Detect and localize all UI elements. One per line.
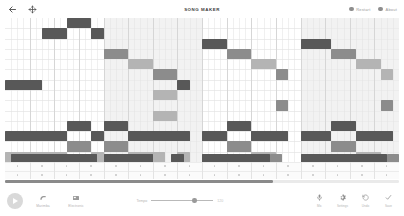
grid-note-cell[interactable] (276, 69, 288, 79)
percussion-separator (5, 162, 399, 163)
instrument-melody-label: Marimba (36, 204, 50, 208)
undo-icon (361, 193, 370, 202)
percussion-cell[interactable] (202, 154, 270, 163)
grid-note-cell[interactable] (202, 39, 227, 49)
grid-note-cell[interactable] (104, 121, 129, 131)
instrument-percussion-selector[interactable]: Electronic (63, 194, 89, 208)
percussion-vline (54, 162, 55, 179)
grid-note-cell[interactable] (331, 49, 356, 59)
percussion-dot-marker (66, 174, 68, 176)
percussion-vline (104, 162, 105, 179)
grid-note-cell[interactable] (5, 80, 42, 90)
grid-note-cell[interactable] (67, 141, 92, 151)
grid-hline (5, 100, 399, 101)
header-restart-label: Restart (356, 7, 370, 12)
percussion-dot-marker (361, 165, 363, 167)
tempo-knob[interactable] (192, 198, 196, 202)
grid-note-cell[interactable] (91, 131, 103, 141)
tempo-slider[interactable] (151, 196, 213, 205)
grid-note-cell[interactable] (227, 49, 252, 59)
undo-button[interactable]: Undo (357, 193, 374, 207)
percussion-dot-marker (140, 165, 142, 167)
grid-note-cell[interactable] (104, 49, 129, 59)
play-button[interactable] (7, 193, 23, 209)
percussion-cell[interactable] (104, 154, 153, 163)
percussion-cell[interactable] (270, 154, 282, 163)
grid-note-cell[interactable] (67, 18, 92, 28)
grid-note-cell[interactable] (331, 141, 356, 151)
utility-tools: Mic Settings Undo (311, 193, 397, 207)
percussion-cell[interactable] (153, 154, 165, 163)
grid-note-cell[interactable] (91, 28, 103, 38)
grid-vline (288, 18, 289, 179)
percussion-cell[interactable] (301, 154, 387, 163)
tempo-label: Tempo (136, 199, 147, 203)
grid-note-cell[interactable] (301, 39, 332, 49)
header-about-button[interactable]: About (378, 7, 397, 12)
check-icon (384, 193, 393, 202)
percussion-dot-marker (41, 174, 43, 176)
back-arrow-icon[interactable] (7, 4, 18, 15)
grid-note-cell[interactable] (153, 69, 178, 79)
grid-note-cell[interactable] (381, 100, 393, 110)
percussion-dot-marker (312, 165, 314, 167)
playback-progress-bar[interactable] (5, 179, 399, 184)
grid-note-cell[interactable] (5, 131, 67, 141)
grid-note-cell[interactable] (356, 59, 381, 69)
grid-note-cell[interactable] (128, 59, 153, 69)
grid-note-cell[interactable] (251, 59, 276, 69)
percussion-vline (374, 162, 375, 179)
save-button[interactable]: Save (380, 193, 397, 207)
grid-note-cell[interactable] (42, 28, 67, 38)
header-restart-button[interactable]: Restart (349, 7, 370, 12)
percussion-cell[interactable] (11, 154, 97, 163)
tempo-value: 120 (217, 199, 223, 203)
sequencer-grid-container[interactable] (5, 18, 399, 179)
grid-note-cell[interactable] (276, 162, 288, 172)
grid-note-cell[interactable] (177, 80, 189, 90)
mic-button[interactable]: Mic (311, 193, 328, 207)
grid-note-cell[interactable] (128, 131, 190, 141)
grid-note-cell[interactable] (153, 90, 178, 100)
grid-note-cell[interactable] (301, 131, 332, 141)
settings-button[interactable]: Settings (334, 193, 351, 207)
header-left-controls (7, 4, 38, 15)
grid-note-cell[interactable] (227, 141, 252, 151)
percussion-dot-marker (17, 174, 19, 176)
percussion-cell[interactable] (171, 154, 183, 163)
sequencer-grid[interactable] (5, 18, 399, 179)
percussion-cell[interactable] (387, 154, 399, 163)
percussion-dot-marker (337, 174, 339, 176)
header-right-controls: Restart About (349, 7, 397, 12)
percussion-vline (227, 162, 228, 179)
percussion-dot-marker (312, 174, 314, 176)
gear-icon (338, 193, 347, 202)
grid-note-cell[interactable] (331, 121, 356, 131)
grid-note-cell[interactable] (381, 69, 393, 79)
grid-note-cell[interactable] (381, 162, 393, 172)
grid-note-cell[interactable] (276, 100, 288, 110)
grid-note-cell[interactable] (356, 131, 393, 141)
percussion-dot-marker (287, 174, 289, 176)
percussion-dot-marker (263, 165, 265, 167)
percussion-dot-marker (164, 174, 166, 176)
percussion-dot-marker (263, 174, 265, 176)
percussion-dot-marker (214, 174, 216, 176)
tempo-control[interactable]: Tempo 120 (136, 196, 223, 205)
percussion-dot-marker (189, 165, 191, 167)
grid-vline (190, 18, 191, 179)
undo-label: Undo (362, 204, 369, 208)
grid-note-cell[interactable] (67, 121, 92, 131)
grid-note-cell[interactable] (227, 121, 252, 131)
percussion-dot-marker (66, 165, 68, 167)
grid-vline (294, 18, 295, 179)
grid-note-cell[interactable] (251, 131, 288, 141)
percussion-dot-marker (164, 165, 166, 167)
grid-note-cell[interactable] (104, 141, 129, 151)
instrument-melody-selector[interactable]: Marimba (30, 194, 56, 208)
percussion-dot-marker (361, 174, 363, 176)
grid-vline (282, 18, 283, 179)
crosshair-move-icon[interactable] (27, 4, 38, 15)
grid-note-cell[interactable] (202, 131, 227, 141)
grid-note-cell[interactable] (153, 111, 178, 121)
